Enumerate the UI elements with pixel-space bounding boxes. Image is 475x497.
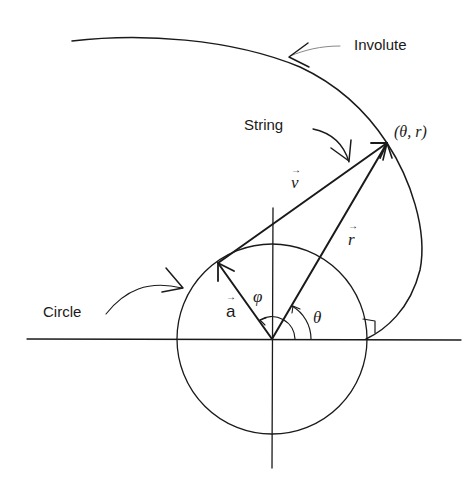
vector-v-label: v [291,173,299,192]
vector-r-arrow-mark: → [348,220,358,231]
involute-diagram: Involute String Circle (θ, r) v → r → a … [0,0,475,497]
angle-theta-label: θ [313,308,321,327]
vector-r-label: r [348,230,355,249]
circle-pointer [106,285,182,314]
involute-curve [72,38,422,339]
circle-pointer-head [162,268,183,292]
vector-v-arrow-mark: → [291,164,301,175]
involute-label: Involute [354,36,407,53]
point-label: (θ, r) [394,123,427,141]
angle-phi-label: φ [253,287,262,306]
vector-r [272,143,387,339]
vector-a-label: a [226,302,236,321]
x-axis [27,339,461,340]
vector-v [218,143,387,263]
string-label: String [244,116,283,133]
circle-label: Circle [43,303,81,320]
vector-a-arrow-mark: → [226,291,236,302]
angle-theta-arrowhead [292,306,300,313]
